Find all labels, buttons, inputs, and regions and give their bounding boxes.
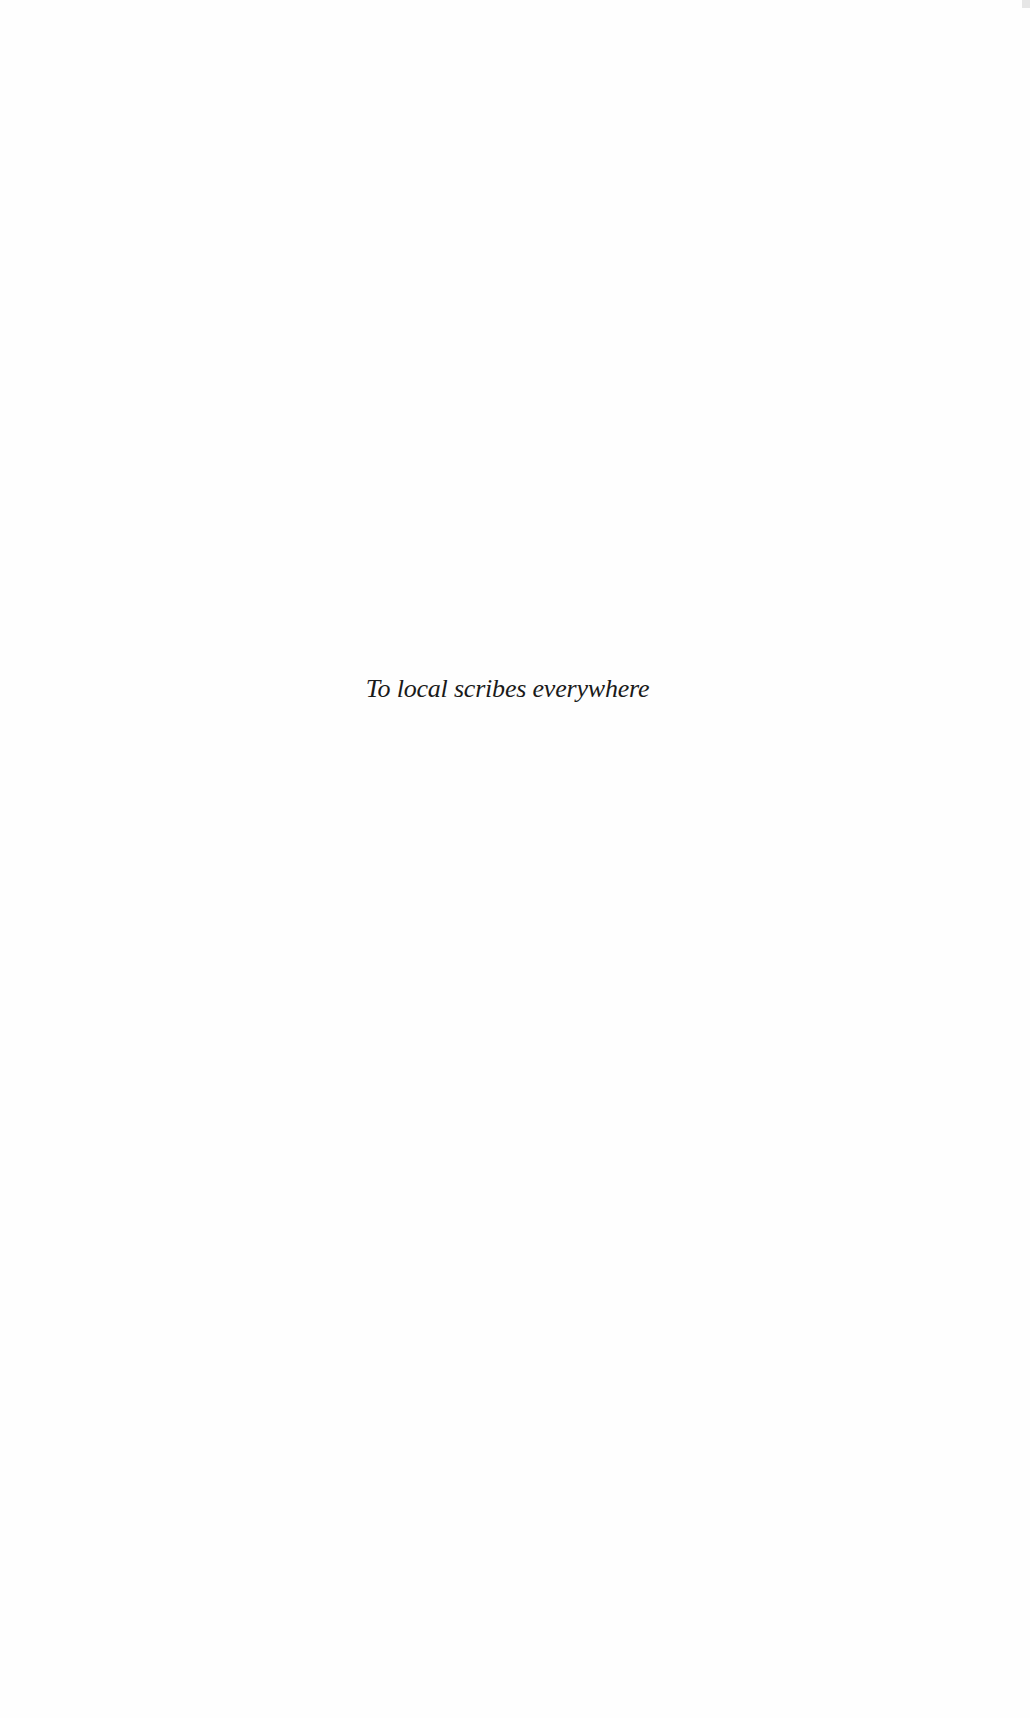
page-corner-mark: [1022, 0, 1030, 8]
book-page: To local scribes everywhere: [0, 0, 1030, 1718]
dedication-text: To local scribes everywhere: [0, 672, 1015, 706]
